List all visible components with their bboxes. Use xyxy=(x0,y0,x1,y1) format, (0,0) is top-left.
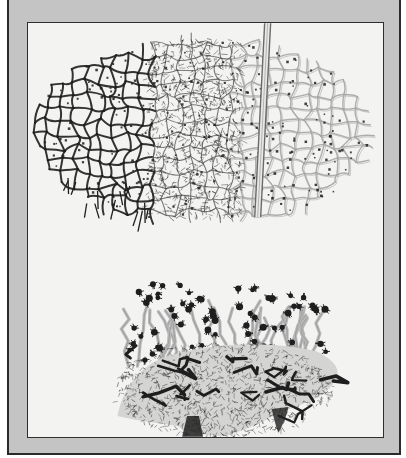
lower-specimen-network xyxy=(113,281,348,437)
upper-specimen-network xyxy=(34,33,376,232)
illustration-plate xyxy=(27,22,384,438)
specimen-illustration xyxy=(28,23,383,437)
